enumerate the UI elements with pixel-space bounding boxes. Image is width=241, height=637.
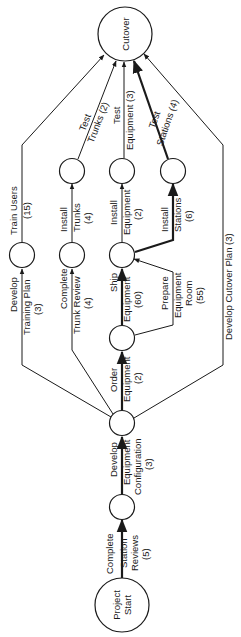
svg-text:(60): (60) — [132, 291, 143, 308]
svg-text:Ship: Ship — [108, 273, 119, 292]
label-equipment-config: Develop Equipment Configuration (3) — [108, 438, 154, 495]
node-config-done — [110, 411, 135, 436]
svg-text:Station: Station — [118, 538, 129, 568]
svg-text:Start: Start — [122, 595, 133, 615]
label-cutover-plan: Develop Cutover Plan (3) — [223, 233, 234, 340]
svg-text:Install: Install — [108, 200, 119, 225]
node-stations-installed — [161, 159, 186, 184]
edge-cutover-plan — [134, 54, 223, 418]
svg-text:Project: Project — [111, 590, 122, 620]
label-install-trunks: Install Trunks (4) — [58, 203, 93, 232]
svg-text:(4): (4) — [82, 212, 93, 224]
svg-text:(6): (6) — [183, 210, 194, 222]
svg-text:Complete: Complete — [104, 533, 115, 574]
label-order-equipment: Order Equipment (2) — [108, 356, 143, 402]
svg-text:Training Plan: Training Plan — [21, 279, 32, 335]
label-install-stations: Install Stations (6) — [159, 197, 194, 232]
svg-text:Develop: Develop — [8, 277, 19, 312]
svg-text:Trunk Review: Trunk Review — [71, 276, 82, 334]
label-test-trunks: Test Trunks (2) — [74, 96, 111, 144]
svg-text:Equipment (3): Equipment (3) — [124, 90, 135, 150]
node-equipment-installed — [110, 159, 135, 184]
label-ship-equipment: Ship Equipment (60) — [108, 273, 143, 322]
label-install-equipment: Install Equipment (2) — [108, 189, 143, 235]
node-trunks-installed — [60, 159, 85, 184]
svg-text:Order: Order — [108, 368, 119, 392]
svg-text:Cutover: Cutover — [120, 17, 131, 50]
node-station-reviews-done — [110, 495, 135, 520]
svg-text:Install: Install — [159, 207, 170, 232]
node-training-plan-done — [10, 243, 35, 268]
label-test-equipment: Test Equipment (3) — [111, 90, 135, 150]
svg-text:Configuration: Configuration — [132, 438, 143, 495]
svg-text:Trunks: Trunks — [71, 203, 82, 232]
svg-text:Equipment: Equipment — [121, 189, 132, 235]
node-equipment-ready — [110, 243, 135, 268]
svg-text:Train Users: Train Users — [8, 186, 19, 235]
node-order-done — [110, 326, 135, 351]
svg-text:(15): (15) — [21, 202, 32, 219]
node-trunk-review-done — [60, 243, 85, 268]
svg-text:Equipment: Equipment — [172, 272, 183, 318]
label-cutover: Cutover — [120, 17, 131, 50]
svg-text:Develop Cutover Plan (3): Develop Cutover Plan (3) — [223, 233, 234, 340]
svg-text:Develop: Develop — [108, 442, 119, 477]
label-training-plan: Develop Training Plan (3) — [8, 277, 43, 335]
label-train-users: Train Users (15) — [8, 186, 32, 235]
pert-diagram: Cutover Project Start Complete Station R… — [0, 0, 241, 637]
svg-text:Stations: Stations — [172, 197, 183, 232]
label-trunk-review: Complete Trunk Review (4) — [58, 268, 93, 334]
svg-text:Reviews: Reviews — [129, 535, 140, 571]
svg-text:Equipment: Equipment — [121, 356, 132, 402]
svg-text:Equipment: Equipment — [121, 439, 132, 485]
svg-text:Complete: Complete — [58, 268, 69, 309]
svg-text:(2): (2) — [132, 372, 143, 384]
svg-text:Prepare: Prepare — [159, 276, 170, 310]
svg-text:(5): (5) — [140, 548, 151, 560]
svg-text:(3): (3) — [143, 458, 154, 470]
svg-text:Install: Install — [58, 207, 69, 232]
svg-text:(3): (3) — [32, 303, 43, 315]
svg-text:Test: Test — [111, 106, 122, 124]
svg-text:(4): (4) — [82, 297, 93, 309]
svg-text:Room: Room — [183, 281, 194, 306]
label-prepare-room: Prepare Equipment Room (55) — [159, 272, 205, 318]
svg-text:(2): (2) — [132, 208, 143, 220]
svg-text:(55): (55) — [194, 287, 205, 304]
svg-text:Equipment: Equipment — [121, 276, 132, 322]
label-station-reviews: Complete Station Reviews (5) — [104, 533, 151, 574]
